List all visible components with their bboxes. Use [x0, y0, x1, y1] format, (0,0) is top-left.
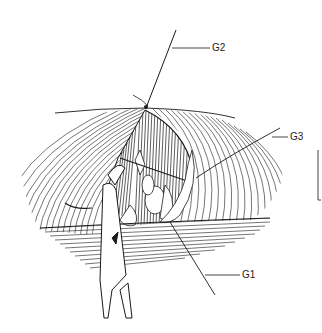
- surgical-illustration: G2 G3 G1: [0, 0, 322, 333]
- illustration-svg: [0, 0, 322, 333]
- pointer-g1: [170, 222, 215, 295]
- label-g2: G2: [212, 43, 225, 53]
- suture-g2: [146, 30, 176, 108]
- tissue-top-outline: [55, 108, 235, 118]
- left-tissue-hatching: [2, 96, 176, 238]
- lower-tissue-hatching: [40, 218, 270, 268]
- label-g1: G1: [242, 270, 255, 280]
- label-g3: G3: [290, 132, 303, 142]
